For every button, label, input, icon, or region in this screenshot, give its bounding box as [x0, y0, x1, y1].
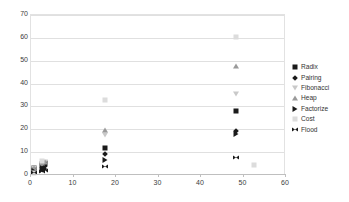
legend-label: Factorize [301, 105, 328, 113]
data-point-heap-0 [31, 165, 37, 170]
legend-item-radix[interactable]: Radix [291, 62, 349, 72]
data-point-factorize-3 [102, 157, 107, 163]
legend-label: Fibonacci [301, 84, 329, 92]
gridline-y-50 [31, 61, 284, 62]
data-point-fibonacci-0 [31, 166, 37, 171]
x-tick-label-0: 0 [18, 179, 42, 187]
data-point-factorize-4 [233, 131, 238, 137]
x-tick-mark-10 [73, 174, 74, 177]
legend-label: Pairing [301, 74, 322, 82]
legend-item-fibonacci[interactable]: Fibonacci [291, 83, 349, 93]
data-point-flood-2 [42, 169, 48, 174]
y-tick-label-10: 10 [2, 147, 28, 155]
data-point-radix-2 [43, 161, 48, 166]
gridline-y-40 [31, 84, 284, 85]
data-point-factorize-1 [40, 167, 45, 173]
data-point-fibonacci-3 [102, 133, 108, 138]
gridline-y-70 [31, 15, 284, 16]
data-point-radix-1 [40, 162, 45, 167]
legend-marker-glyph [293, 106, 298, 112]
x-tick-label-60: 60 [273, 179, 297, 187]
legend-marker-triangle-right-icon [291, 104, 301, 114]
legend-marker-glyph [292, 75, 298, 81]
gridline-y-30 [31, 106, 284, 107]
x-axis-tick-labels: 0102030405060 [0, 179, 349, 191]
y-tick-label-60: 60 [2, 33, 28, 41]
plot-area [30, 14, 285, 174]
data-point-fibonacci-4 [233, 91, 239, 96]
chart-legend: RadixPairingFibonacciHeapFactorizeCostFl… [291, 62, 349, 135]
data-point-cost-1 [40, 159, 45, 164]
y-tick-label-0: 0 [2, 170, 28, 178]
data-point-pairing-1 [40, 164, 46, 170]
x-tick-mark-20 [115, 174, 116, 177]
legend-marker-triangle-down-icon [291, 83, 301, 93]
x-tick-mark-40 [200, 174, 201, 177]
legend-label: Flood [301, 126, 318, 134]
legend-marker-glyph [293, 117, 298, 122]
legend-item-heap[interactable]: Heap [291, 93, 349, 103]
data-point-heap-2 [42, 159, 48, 164]
data-point-flood-3 [102, 164, 108, 169]
legend-label: Cost [301, 115, 315, 123]
legend-marker-square-icon [291, 62, 301, 72]
legend-marker-bowtie-icon [291, 125, 301, 135]
legend-item-factorize[interactable]: Factorize [291, 104, 349, 114]
scatter-chart: 010203040506070 0102030405060 RadixPairi… [0, 0, 349, 202]
legend-item-cost[interactable]: Cost [291, 114, 349, 124]
y-tick-label-30: 30 [2, 101, 28, 109]
legend-marker-glyph [292, 85, 298, 90]
data-point-fibonacci-2 [42, 160, 48, 165]
legend-label: Radix [301, 63, 318, 71]
x-tick-mark-50 [243, 174, 244, 177]
legend-marker-triangle-up-icon [291, 93, 301, 103]
data-point-heap-4 [233, 64, 239, 69]
data-point-radix-4 [233, 109, 238, 114]
data-point-cost-2 [102, 97, 107, 102]
y-tick-label-20: 20 [2, 124, 28, 132]
legend-item-pairing[interactable]: Pairing [291, 72, 349, 82]
data-point-fibonacci-1 [39, 161, 45, 166]
legend-item-flood[interactable]: Flood [291, 124, 349, 134]
data-point-pairing-0 [31, 167, 37, 173]
data-point-pairing-2 [42, 163, 48, 169]
x-tick-label-40: 40 [188, 179, 212, 187]
data-point-factorize-2 [43, 166, 48, 172]
y-axis-tick-labels: 010203040506070 [0, 0, 28, 202]
x-tick-mark-30 [158, 174, 159, 177]
x-tick-label-50: 50 [231, 179, 255, 187]
y-tick-label-50: 50 [2, 56, 28, 64]
legend-label: Heap [301, 94, 317, 102]
x-tick-label-20: 20 [103, 179, 127, 187]
data-point-radix-0 [31, 165, 36, 170]
x-tick-label-30: 30 [146, 179, 170, 187]
legend-marker-glyph [293, 65, 298, 70]
data-point-cost-4 [252, 162, 257, 167]
gridline-y-20 [31, 129, 284, 130]
x-tick-mark-60 [285, 174, 286, 177]
x-tick-mark-0 [30, 174, 31, 177]
legend-marker-dash-icon [291, 114, 301, 124]
gridline-y-10 [31, 152, 284, 153]
data-point-flood-4 [233, 155, 239, 160]
data-point-radix-3 [102, 145, 107, 150]
y-tick-label-40: 40 [2, 79, 28, 87]
gridline-y-60 [31, 38, 284, 39]
y-tick-label-70: 70 [2, 10, 28, 18]
legend-marker-diamond-icon [291, 73, 301, 83]
data-point-heap-1 [39, 161, 45, 166]
legend-marker-glyph [292, 127, 298, 132]
legend-marker-glyph [292, 96, 298, 101]
x-tick-label-10: 10 [61, 179, 85, 187]
